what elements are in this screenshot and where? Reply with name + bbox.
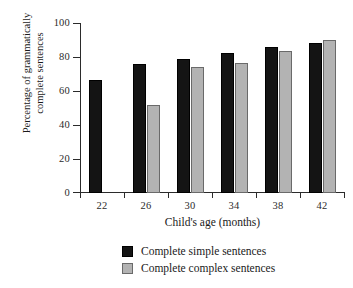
bar-38-simple [265, 47, 278, 193]
x-tick-label-34: 34 [214, 200, 254, 211]
bar-42-complex [323, 40, 336, 193]
bar-34-complex [235, 63, 248, 193]
x-tick-label-30: 30 [170, 200, 210, 211]
bar-38-complex [279, 51, 292, 193]
y-axis-tick [73, 159, 80, 160]
y-axis-tick [73, 91, 80, 92]
bar-22-simple [89, 80, 102, 193]
y-axis-tick [73, 192, 80, 193]
bar-42-simple [309, 43, 322, 193]
y-axis-tick [73, 125, 80, 126]
bar-30-simple [177, 59, 190, 193]
x-tick-label-38: 38 [258, 200, 298, 211]
y-axis-tick [73, 23, 80, 24]
bars-layer [80, 23, 345, 193]
bar-34-simple [221, 53, 234, 193]
bar-30-complex [191, 67, 204, 193]
bar-26-simple [133, 64, 146, 193]
legend-swatch-black-square [122, 246, 133, 257]
legend-label-complex: Complete complex sentences [141, 260, 275, 277]
x-axis-title: Child's age (months) [80, 216, 345, 228]
bar-26-complex [147, 105, 160, 193]
legend-label-simple: Complete simple sentences [141, 243, 266, 260]
y-axis-title-line-1: Percentage of grammatically [20, 0, 33, 168]
chart-legend: Complete simple sentences Complete compl… [122, 243, 275, 277]
x-tick-label-26: 26 [126, 200, 166, 211]
legend-item-simple: Complete simple sentences [122, 243, 275, 260]
x-tick-label-22: 22 [82, 200, 122, 211]
x-tick-label-42: 42 [302, 200, 342, 211]
y-axis-title-line-2: complete sentences [33, 0, 46, 168]
y-axis-tick [73, 57, 80, 58]
y-tick-label-0: 0 [10, 188, 70, 199]
bar-chart-figure: 100 80 60 40 20 0 22 26 30 34 38 42 Chil… [0, 0, 353, 288]
legend-item-complex: Complete complex sentences [122, 260, 275, 277]
y-axis-title: Percentage of grammatically complete sen… [20, 0, 50, 168]
legend-swatch-gray-square [122, 263, 133, 274]
